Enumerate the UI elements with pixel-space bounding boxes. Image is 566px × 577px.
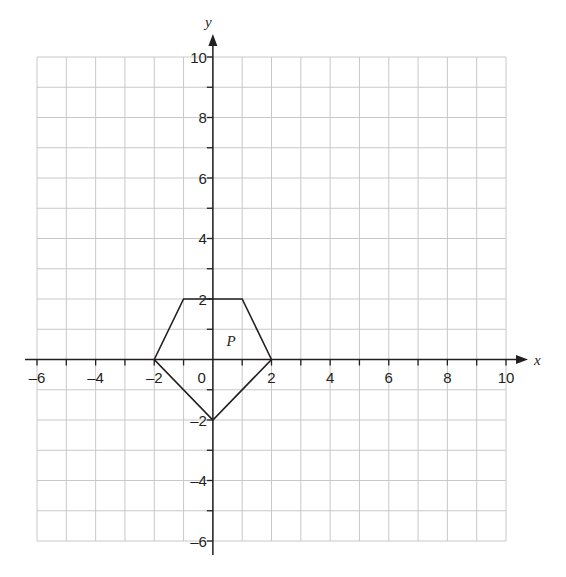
x-tick-label: 8: [443, 369, 451, 386]
x-tick-label: 6: [385, 369, 393, 386]
y-axis-label: y: [203, 14, 212, 30]
x-tick-label: –2: [146, 369, 163, 386]
y-tick-label: –6: [190, 533, 207, 550]
grid-lines: [37, 57, 506, 541]
y-tick-label: 8: [199, 109, 207, 126]
x-tick-label: –4: [87, 369, 104, 386]
coordinate-grid: –6–4–20246810–6–4–2246810 P x y: [0, 0, 566, 577]
axes: [25, 34, 528, 555]
y-tick-label: –2: [190, 412, 207, 429]
y-tick-label: 4: [199, 230, 207, 247]
x-tick-label: 0: [198, 369, 206, 386]
x-tick-label: 10: [498, 369, 515, 386]
y-tick-label: 6: [199, 170, 207, 187]
x-tick-label: 4: [326, 369, 334, 386]
x-tick-label: 2: [267, 369, 275, 386]
x-axis-label: x: [533, 352, 541, 368]
x-axis-arrow-icon: [516, 355, 528, 364]
y-tick-label: 10: [190, 49, 207, 66]
y-axis-arrow-icon: [208, 34, 217, 46]
y-tick-label: –4: [190, 472, 207, 489]
shape-label-p: P: [225, 333, 235, 349]
x-tick-label: –6: [29, 369, 46, 386]
